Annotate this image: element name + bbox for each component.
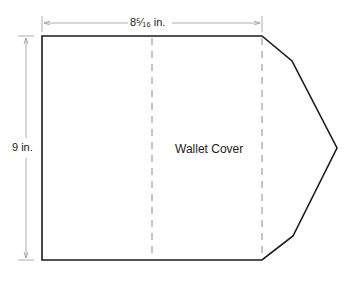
pattern-diagram (0, 0, 348, 287)
wallet-cover-label: Wallet Cover (175, 142, 243, 156)
height-label: 9 in. (12, 141, 33, 153)
width-label: 8⁵⁄₁₆ in. (130, 16, 165, 28)
